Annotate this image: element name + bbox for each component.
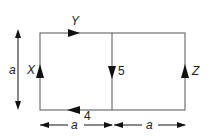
middle-arrow-icon [108,66,116,79]
right-arrow-icon [181,64,189,78]
label-width-right: a [146,118,153,132]
label-middle: 5 [118,64,125,78]
label-bottom: 4 [84,109,91,123]
top-arrow-icon [68,29,80,37]
height-up-arrow-icon [15,29,21,38]
label-height: a [9,63,16,77]
circuit-diagram: Y X 5 Z 4 a a a [0,0,211,136]
label-top: Y [71,14,80,28]
bottom-arrow-icon [67,106,80,114]
left-arrow-icon [36,64,44,78]
height-down-arrow-icon [15,101,21,110]
label-right: Z [191,64,200,78]
label-width-left: a [71,118,78,132]
width-right-end-arrow-icon [177,122,186,128]
label-left: X [26,63,36,77]
width-left-end-arrow-icon [104,122,113,128]
width-right-start-arrow-icon [114,122,123,128]
width-left-start-arrow-icon [40,122,49,128]
